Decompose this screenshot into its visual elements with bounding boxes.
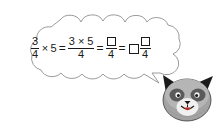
third-fraction: 4 [106,36,117,60]
mixed-number-fraction: 4 [140,36,151,60]
mixed-number-numerator [140,36,151,49]
third-fraction-numerator [106,36,117,49]
second-fraction: 3 × 5 4 [68,36,95,60]
first-fraction-numerator: 3 [31,36,39,49]
third-fraction-denominator: 4 [108,49,114,61]
equals-sign-2: = [94,41,105,55]
multiplication-icon: × [39,42,50,54]
mixed-number-whole-part [128,42,140,54]
answer-box-numerator-2[interactable] [141,37,150,46]
raccoon-right-pupil [195,94,198,97]
second-fraction-denominator: 4 [78,49,84,61]
second-fraction-numerator: 3 × 5 [68,36,95,49]
mixed-number-denominator: 4 [142,49,148,61]
equals-sign-1: = [57,41,68,55]
equals-sign-3: = [117,41,128,55]
worksheet-illustration: 3 4 × 5 = 3 × 5 4 = 4 = 4 [0,0,215,129]
answer-box-whole[interactable] [129,44,139,54]
answer-box-numerator-1[interactable] [107,37,116,46]
first-fraction: 3 4 [31,36,39,60]
equation-expression: 3 4 × 5 = 3 × 5 4 = 4 = 4 [31,33,171,63]
illustration-canvas [0,0,215,129]
raccoon-left-pupil [177,94,180,97]
raccoon-character [163,75,213,121]
first-fraction-denominator: 4 [32,49,38,61]
